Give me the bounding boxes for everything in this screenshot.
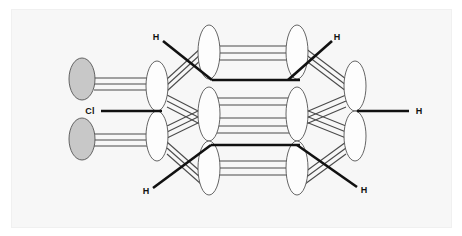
thin-bond-line (167, 48, 201, 79)
atom-label-layer: ClHHHHH (85, 32, 422, 196)
orbital-column (286, 25, 308, 195)
orbital-lobe (69, 118, 95, 160)
orbital-lobe (344, 61, 366, 111)
thin-bond-line (305, 154, 346, 184)
thin-bond-line (305, 48, 346, 79)
atom-label-h-top-right: H (334, 32, 341, 42)
orbital-column (198, 25, 220, 195)
atom-label-h-bottom-right: H (361, 185, 368, 195)
atom-label-h-far-right: H (416, 106, 423, 116)
thin-bond-group (305, 48, 346, 91)
thin-bond-group (216, 46, 291, 60)
thin-bond-group (305, 142, 346, 184)
atom-label-cl-left: Cl (85, 106, 94, 116)
thin-bond-group (306, 110, 346, 138)
orbital-overlap-diagram: ClHHHHH (0, 0, 462, 236)
orbital-lobe (146, 61, 168, 111)
thick-bond-layer (101, 41, 409, 188)
orbital-lobe (198, 87, 220, 141)
thin-bond-line (305, 60, 346, 91)
thin-bond-group (217, 98, 290, 133)
orbital-lobe (69, 58, 95, 100)
thin-bond-line (167, 60, 201, 91)
diagram-canvas: ClHHHHH (0, 0, 462, 236)
thin-bond-line (305, 142, 346, 172)
thin-bond-line (167, 154, 201, 184)
thin-bond-group (167, 95, 200, 124)
orbital-lobe (146, 111, 168, 161)
thin-bond-group (306, 95, 346, 124)
thin-bond-group (167, 110, 200, 138)
thin-bond-group (216, 161, 291, 175)
orbital-lobe (286, 87, 308, 141)
atom-label-h-top-left: H (153, 32, 160, 42)
orbital-lobe (198, 141, 220, 195)
thin-bond-group (167, 48, 201, 91)
thin-bond-group (167, 142, 201, 184)
orbital-lobe (344, 111, 366, 161)
atom-label-h-bottom-left: H (143, 186, 150, 196)
